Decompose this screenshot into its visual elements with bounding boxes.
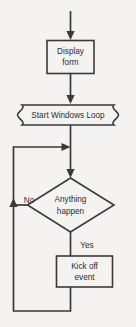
node-display-form-line1: Display xyxy=(57,47,85,56)
flowchart-canvas: Display form Start Windows Loop Anything xyxy=(0,0,136,327)
edge-label-no: No xyxy=(24,196,35,205)
flowchart-svg: Display form Start Windows Loop Anything xyxy=(0,0,136,327)
node-display-form[interactable]: Display form xyxy=(47,41,94,74)
node-kick-off-event-line2: event xyxy=(74,273,95,282)
node-anything-happen[interactable]: Anything happen xyxy=(28,178,115,232)
node-anything-happen-line2: happen xyxy=(57,207,85,216)
node-kick-off-event-line1: Kick off xyxy=(71,262,98,271)
node-start-windows-loop-label: Start Windows Loop xyxy=(31,111,105,120)
node-kick-off-event[interactable]: Kick off event xyxy=(57,256,113,287)
connector-loop-to-decision xyxy=(66,125,74,178)
connector-entry-to-display-form xyxy=(66,11,74,40)
edge-label-yes: Yes xyxy=(80,241,93,250)
node-start-windows-loop[interactable]: Start Windows Loop xyxy=(18,105,119,125)
node-display-form-line2: form xyxy=(62,58,79,67)
node-anything-happen-line1: Anything xyxy=(55,195,87,204)
connector-display-form-to-loop xyxy=(66,74,74,105)
